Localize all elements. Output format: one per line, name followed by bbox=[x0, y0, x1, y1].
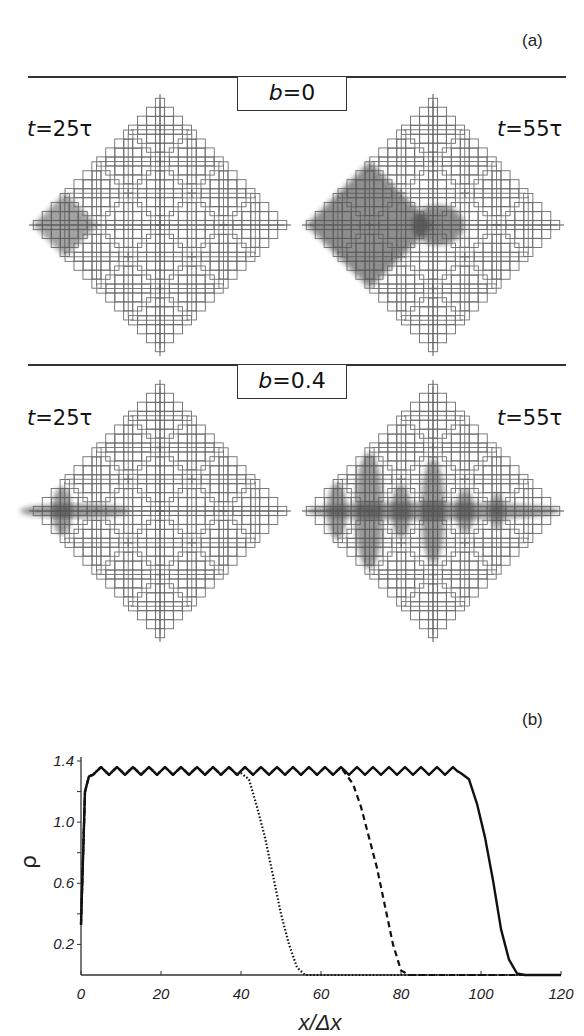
x-tick-label: 120 bbox=[548, 985, 574, 1002]
x-tick-label: 60 bbox=[313, 985, 330, 1002]
density-profile-chart: 0204060801001200.20.61.01.4 x/Δx ρ bbox=[0, 0, 584, 1036]
series-dotted bbox=[81, 767, 561, 975]
chart-series bbox=[81, 767, 561, 975]
x-axis-label: x/Δx bbox=[298, 1010, 343, 1035]
y-tick-label: 1.0 bbox=[53, 813, 75, 830]
x-tick-label: 80 bbox=[393, 985, 410, 1002]
x-tick-label: 100 bbox=[468, 985, 494, 1002]
y-tick-label: 1.4 bbox=[53, 752, 74, 769]
series-dashed bbox=[81, 767, 561, 975]
y-tick-label: 0.2 bbox=[53, 935, 75, 952]
chart-axes: 0204060801001200.20.61.01.4 bbox=[53, 752, 574, 1002]
x-tick-label: 0 bbox=[77, 985, 86, 1002]
x-tick-label: 40 bbox=[233, 985, 250, 1002]
series-solid bbox=[81, 767, 561, 975]
y-axis-label: ρ bbox=[16, 855, 41, 869]
x-tick-label: 20 bbox=[152, 985, 170, 1002]
y-tick-label: 0.6 bbox=[53, 874, 75, 891]
